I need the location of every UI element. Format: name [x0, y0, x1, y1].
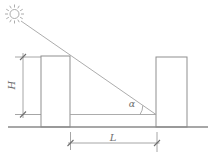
height-label: H: [6, 80, 17, 90]
sun-shadow-diagram: α H L: [0, 0, 212, 164]
sun-disc: [10, 10, 19, 19]
front-building: [41, 56, 70, 127]
rear-building: [156, 57, 187, 127]
angle-arc: [140, 105, 143, 114]
spacing-label: L: [109, 132, 117, 143]
height-dimension: H: [6, 53, 41, 118]
angle-label: α: [129, 98, 136, 109]
diagram-svg: α H L: [0, 0, 212, 164]
sun-rays: [5, 5, 24, 24]
sun-icon: [5, 5, 24, 24]
spacing-dimension: L: [68, 132, 161, 152]
